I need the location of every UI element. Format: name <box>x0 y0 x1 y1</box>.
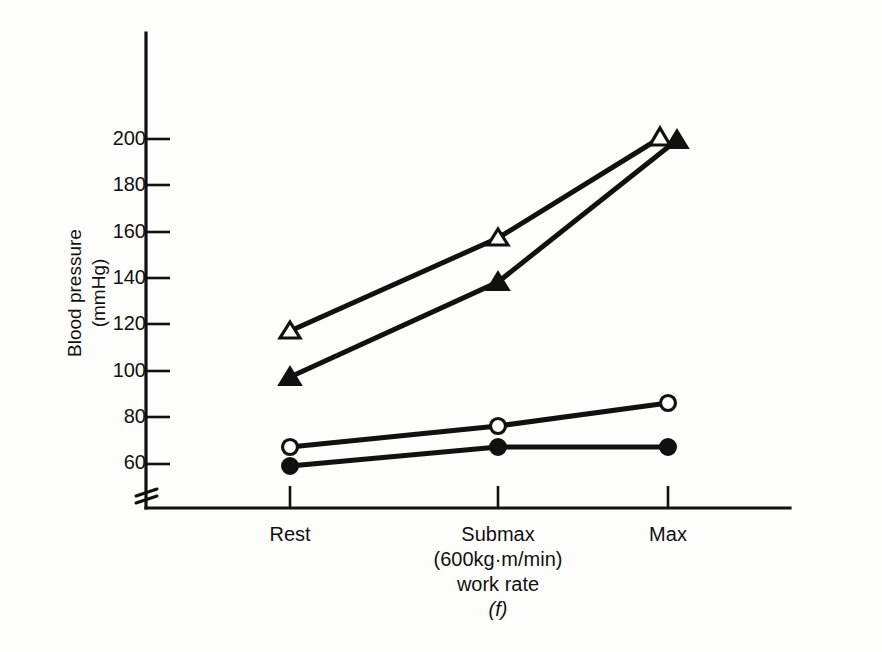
series-line-open-triangle <box>290 138 660 331</box>
blood-pressure-chart-figure: Blood pressure (mmHg) 200 180 160 140 12… <box>0 0 882 652</box>
marker-open-circle-max <box>661 396 676 411</box>
series-line-filled-triangle <box>290 140 677 377</box>
marker-filled-triangle-max <box>666 130 688 148</box>
marker-filled-circle-submax <box>490 439 506 455</box>
marker-open-circle-submax <box>491 419 506 434</box>
marker-open-triangle-max <box>650 128 670 145</box>
marker-open-circle-rest <box>283 440 298 455</box>
marker-filled-circle-rest <box>282 458 298 474</box>
marker-filled-circle-max <box>660 439 676 455</box>
series-line-filled-circle <box>290 447 668 466</box>
plot-area-svg <box>0 0 882 652</box>
series-line-open-circle <box>290 403 668 447</box>
